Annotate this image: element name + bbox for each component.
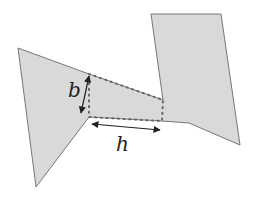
label-b: b [68,80,81,100]
h-dimension-arrow [92,124,160,130]
label-h: h [116,134,129,154]
polygon-diagram [0,0,260,200]
diagram-canvas: b h [0,0,260,200]
shaded-polygon [18,14,240,187]
